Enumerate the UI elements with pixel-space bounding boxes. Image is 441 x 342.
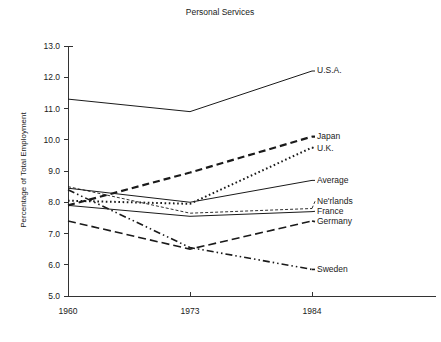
x-tick-label: 1984	[303, 306, 322, 316]
axis-frame	[68, 46, 436, 296]
series-leader-line	[312, 221, 315, 222]
y-tick-label: 10.0	[43, 135, 60, 145]
y-tick-label: 6.0	[48, 260, 60, 270]
series-leader-line	[312, 148, 315, 149]
series-label-germany: Germany	[317, 216, 353, 226]
chart-container: Personal Services Percentage of Total Em…	[0, 0, 441, 342]
x-tick-label: 1960	[59, 306, 78, 316]
y-tick-label: 12.0	[43, 72, 60, 82]
series-line-average	[68, 180, 312, 202]
y-axis-ticks: 5.06.07.08.09.010.011.012.013.0	[43, 41, 68, 301]
series-label-ne-rlands: Ne'rlands	[317, 196, 353, 206]
series-label-average: Average	[317, 175, 349, 185]
y-axis-title: Percentage of Total Employment	[19, 111, 28, 227]
y-tick-label: 7.0	[48, 229, 60, 239]
series-lines	[68, 71, 315, 269]
series-leader-line	[312, 201, 315, 208]
series-line-u-s-a	[68, 71, 312, 112]
y-tick-label: 9.0	[48, 166, 60, 176]
y-tick-label: 11.0	[44, 104, 60, 114]
series-label-france: France	[317, 206, 344, 216]
series-label-u-s-a: U.S.A.	[317, 65, 342, 75]
y-tick-label: 13.0	[43, 41, 60, 51]
series-label-u-k: U.K.	[317, 143, 334, 153]
series-line-ne-rlands	[68, 187, 312, 214]
series-line-japan	[68, 137, 312, 206]
y-tick-label: 5.0	[48, 291, 60, 301]
series-line-germany	[68, 221, 312, 249]
x-tick-label: 1973	[181, 306, 200, 316]
series-label-japan: Japan	[317, 131, 340, 141]
y-tick-label: 8.0	[48, 197, 60, 207]
chart-title: Personal Services	[186, 7, 255, 17]
series-label-sweden: Sweden	[317, 264, 348, 274]
series-labels: U.S.A.JapanU.K.AverageNe'rlandsFranceGer…	[317, 65, 353, 273]
personal-services-line-chart: Personal Services Percentage of Total Em…	[0, 0, 441, 342]
